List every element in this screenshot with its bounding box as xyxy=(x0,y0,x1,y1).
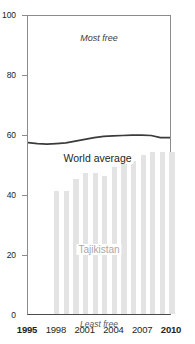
y-tick-label: 40 xyxy=(0,190,16,200)
x-tick-label: 2010 xyxy=(161,324,181,335)
y-tick-label: 0 xyxy=(0,310,16,320)
y-tick-label: 60 xyxy=(0,130,16,140)
x-tick-label: 2007 xyxy=(132,324,152,335)
world-average-line xyxy=(28,16,170,314)
y-tick-label: 100 xyxy=(0,10,16,20)
bar xyxy=(169,152,174,314)
y-tick-label: 20 xyxy=(0,250,16,260)
x-tick-label: 2001 xyxy=(74,324,94,335)
chart-container: 020406080100 Most free Least free World … xyxy=(0,0,195,344)
world-average-path xyxy=(28,135,170,144)
country-series-label: Tajikistan xyxy=(76,244,121,255)
x-tick-label: 1995 xyxy=(17,324,37,335)
x-tick-label: 1998 xyxy=(46,324,66,335)
most-free-annotation: Most free xyxy=(80,33,118,43)
plot-area: Most free Least free World average Tajik… xyxy=(27,15,171,315)
world-average-label: World average xyxy=(62,152,134,164)
x-tick-label: 2004 xyxy=(103,324,123,335)
y-tick-label: 80 xyxy=(0,70,16,80)
